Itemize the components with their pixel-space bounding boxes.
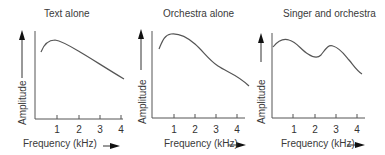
panel-orchestra-alone: Orchestra alone Amplitude 1 2 3 4 Freque… bbox=[125, 0, 260, 155]
plot-area bbox=[0, 0, 128, 155]
amplitude-curve bbox=[273, 39, 362, 74]
y-axis-arrow-icon bbox=[138, 29, 144, 70]
x-tick-1: 1 bbox=[51, 124, 63, 135]
panel-text-alone: Text alone Amplitude 1 2 3 4 Frequency (… bbox=[0, 0, 128, 155]
x-tick-3: 3 bbox=[210, 124, 222, 135]
x-tick-3: 3 bbox=[330, 124, 342, 135]
y-axis-arrow-icon bbox=[19, 30, 25, 78]
x-axis-label: Frequency (kHz) bbox=[23, 138, 97, 149]
amplitude-curve bbox=[159, 34, 249, 86]
x-tick-3: 3 bbox=[94, 124, 106, 135]
y-axis-label: Amplitude bbox=[256, 80, 267, 124]
x-tick-1: 1 bbox=[288, 124, 300, 135]
x-axis-label: Frequency (kHz) bbox=[281, 138, 355, 149]
x-tick-2: 2 bbox=[73, 124, 85, 135]
x-tick-1: 1 bbox=[168, 124, 180, 135]
y-axis-label: Amplitude bbox=[17, 81, 28, 125]
y-axis-arrow-icon bbox=[258, 33, 264, 62]
x-tick-2: 2 bbox=[189, 124, 201, 135]
amplitude-curve bbox=[41, 40, 124, 79]
x-tick-4: 4 bbox=[231, 124, 243, 135]
y-axis-label: Amplitude bbox=[137, 80, 148, 124]
x-axis-label: Frequency (kHz) bbox=[164, 138, 238, 149]
x-tick-2: 2 bbox=[309, 124, 321, 135]
x-tick-4: 4 bbox=[351, 124, 363, 135]
panel-singer-and-orchestra: Singer and orchestra Amplitude 1 2 3 4 F… bbox=[255, 0, 385, 155]
x-axis-arrow-icon bbox=[103, 143, 120, 149]
